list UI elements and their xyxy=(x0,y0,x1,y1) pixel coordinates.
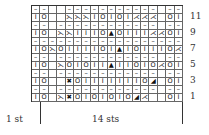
chart-cell xyxy=(57,78,65,86)
chart-cell: I xyxy=(91,14,99,22)
chart-cell: – xyxy=(66,86,74,94)
chart-cell: – xyxy=(32,86,40,94)
chart-cell: – xyxy=(57,22,65,30)
chart-cell: – xyxy=(82,70,90,78)
chart-cell: I xyxy=(32,14,40,22)
chart-cell: – xyxy=(141,70,149,78)
chart-cell: I xyxy=(133,30,141,38)
chart-cell: – xyxy=(108,70,116,78)
chart-cell: I xyxy=(175,14,183,22)
chart-cell: I xyxy=(133,78,141,86)
chart-cell: – xyxy=(108,6,116,14)
chart-cell: O xyxy=(74,78,82,86)
chart-cell xyxy=(49,6,57,14)
chart-cell: O xyxy=(124,94,132,102)
chart-cell: – xyxy=(158,38,166,46)
chart-cell: – xyxy=(108,54,116,62)
chart-cell xyxy=(158,14,166,22)
chart-cell: – xyxy=(166,86,174,94)
chart-cell: O xyxy=(99,14,107,22)
chart-cell xyxy=(49,62,57,70)
chart-cell: – xyxy=(116,54,124,62)
chart-cell: – xyxy=(32,38,40,46)
row-label-11: 11 xyxy=(190,11,201,21)
chart-cell: – xyxy=(91,70,99,78)
chart-cell: – xyxy=(74,54,82,62)
chart-cell: – xyxy=(32,54,40,62)
chart-cell: – xyxy=(82,38,90,46)
chart-cell: – xyxy=(149,22,157,30)
chart-cell: – xyxy=(99,38,107,46)
chart-cell xyxy=(158,6,166,14)
chart-cell: – xyxy=(91,22,99,30)
chart-cell xyxy=(49,54,57,62)
chart-cell: – xyxy=(82,86,90,94)
chart-cell: – xyxy=(149,86,157,94)
chart-cell: – xyxy=(91,38,99,46)
chart-cell: ⋋ xyxy=(74,14,82,22)
chart-cell: I xyxy=(175,30,183,38)
chart-cell: O xyxy=(166,14,174,22)
chart-cell: – xyxy=(175,70,183,78)
chart-cell xyxy=(149,94,157,102)
chart-cell: I xyxy=(99,78,107,86)
chart-cell: ⋋ xyxy=(57,30,65,38)
chart-cell: – xyxy=(133,6,141,14)
chart-cell: ⋌ xyxy=(158,62,166,70)
chart-cell: ✖ xyxy=(66,94,74,102)
chart-cell: O xyxy=(116,30,124,38)
chart-cell: – xyxy=(91,54,99,62)
chart-cell: I xyxy=(124,30,132,38)
chart-cell: ⋋ xyxy=(49,46,57,54)
repeat-label: 14 sts xyxy=(92,114,119,124)
chart-cell: – xyxy=(133,38,141,46)
chart-cell: – xyxy=(133,86,141,94)
chart-cell xyxy=(158,22,166,30)
chart-cell: O xyxy=(166,62,174,70)
chart-cell: I xyxy=(158,46,166,54)
chart-cell: – xyxy=(141,22,149,30)
chart-cell xyxy=(49,86,57,94)
chart-cell: I xyxy=(91,78,99,86)
row-label-7: 7 xyxy=(190,43,196,53)
chart-cell: – xyxy=(49,38,57,46)
chart-cell: I xyxy=(91,46,99,54)
chart-cell xyxy=(49,70,57,78)
chart-cell: O xyxy=(133,62,141,70)
edge-divider-line xyxy=(40,102,41,124)
row-label-9: 9 xyxy=(190,27,196,37)
chart-cell: – xyxy=(66,22,74,30)
chart-cell: I xyxy=(32,46,40,54)
chart-cell: I xyxy=(32,78,40,86)
chart-cell: O xyxy=(40,30,48,38)
chart-cell: – xyxy=(66,6,74,14)
chart-cell: I xyxy=(175,62,183,70)
chart-cell: I xyxy=(175,94,183,102)
chart-cell: I xyxy=(91,62,99,70)
chart-cell: – xyxy=(99,70,107,78)
chart-cell: O xyxy=(166,94,174,102)
chart-cell: I xyxy=(141,46,149,54)
chart-cell: – xyxy=(166,22,174,30)
chart-cell: O xyxy=(166,78,174,86)
chart-cell: O xyxy=(166,46,174,54)
chart-cell: O xyxy=(99,46,107,54)
chart-cell: – xyxy=(149,54,157,62)
chart-cell: – xyxy=(116,22,124,30)
chart-cell: – xyxy=(40,22,48,30)
chart-cell: – xyxy=(175,22,183,30)
knitting-chart-grid: –––––––––––––––IO⋋⋋⋋IOIOI⋌⋌⋌OI––––––––––… xyxy=(31,5,183,102)
chart-cell: I xyxy=(91,30,99,38)
chart-cell: – xyxy=(32,70,40,78)
chart-cell: – xyxy=(124,6,132,14)
chart-cell xyxy=(49,78,57,86)
chart-cell: I xyxy=(141,30,149,38)
chart-cell: ▲ xyxy=(108,30,116,38)
row-label-5: 5 xyxy=(190,59,196,69)
edge-stitch-label: 1 st xyxy=(6,114,23,124)
chart-cell: O xyxy=(40,14,48,22)
chart-cell: I xyxy=(175,78,183,86)
chart-cell: – xyxy=(116,86,124,94)
chart-cell: O xyxy=(74,94,82,102)
chart-cell: – xyxy=(124,86,132,94)
